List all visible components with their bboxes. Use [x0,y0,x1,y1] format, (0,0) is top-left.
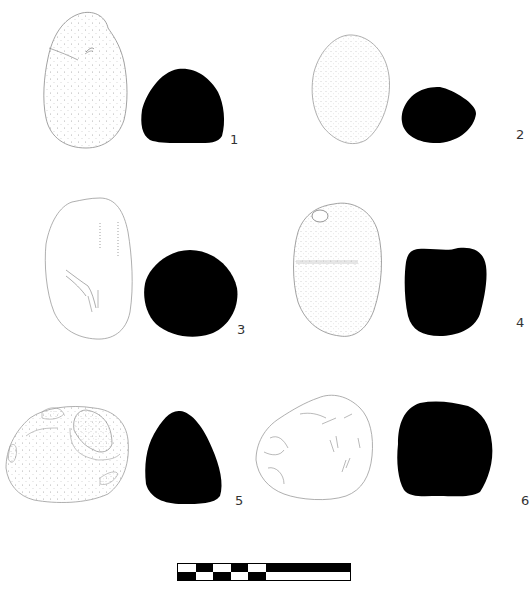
figure-1-cross-section [141,69,224,143]
figure-2-plan-view [312,35,389,144]
scale-segment [178,564,196,572]
plate-drawing [0,0,531,594]
figure-5-number: 5 [235,494,243,507]
scale-segment [248,564,266,572]
scale-segment [196,572,214,580]
figure-3-plan-view [45,198,132,339]
figure-6-plan-view [256,395,373,499]
scale-segment [196,564,214,572]
figure-1-plan-view [44,12,127,148]
scale-segment [231,564,249,572]
figure-4-plan-view [294,203,382,336]
artifact-plate: 1 2 3 4 5 6 [0,0,531,594]
scale-bar-bottom-row [178,572,350,580]
figure-5-plan-view [6,406,128,502]
figure-2-number: 2 [516,128,524,141]
figure-1-number: 1 [230,133,238,146]
scale-bar [177,563,351,581]
scale-bar-top-row [178,564,350,572]
figure-3-cross-section [144,250,237,337]
figure-6-cross-section [397,402,492,497]
figure-4-cross-section [405,248,487,336]
scale-segment [266,564,351,572]
scale-segment [231,572,249,580]
figure-2-cross-section [402,87,476,143]
figure-6-number: 6 [521,494,529,507]
scale-segment [266,572,351,580]
figure-4-number: 4 [516,316,524,329]
figure-3-number: 3 [237,323,245,336]
scale-segment [248,572,266,580]
figure-5-cross-section [145,411,221,504]
scale-segment [213,572,231,580]
scale-segment [178,572,196,580]
scale-segment [213,564,231,572]
